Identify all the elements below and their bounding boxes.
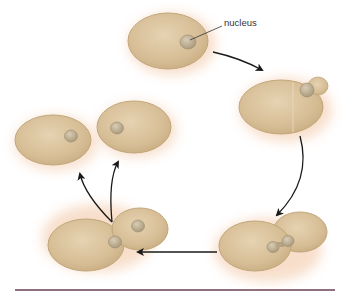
nucleus	[65, 130, 78, 142]
nucleus	[132, 220, 145, 232]
nucleus	[300, 83, 314, 97]
nucleus	[111, 122, 124, 134]
early-bud-cell	[239, 77, 332, 142]
yeast-budding-diagram: nucleus	[0, 0, 350, 294]
arrow-stage2-to-3	[277, 136, 303, 215]
two-daughter-cells	[14, 101, 177, 171]
nucleus-label: nucleus	[224, 17, 257, 28]
nucleus	[109, 236, 122, 248]
nucleus	[180, 35, 196, 49]
nuclear-division-cell	[214, 212, 327, 282]
mother-cell	[128, 13, 216, 75]
arrow-stage1-to-2	[213, 52, 262, 70]
